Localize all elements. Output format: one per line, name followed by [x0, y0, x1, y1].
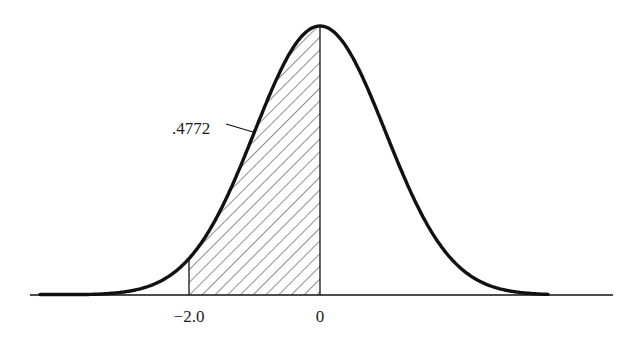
tick-label-zero: 0 [316, 307, 325, 326]
shaded-area [185, 20, 325, 300]
annotation-leader-line [226, 124, 253, 132]
tick-label-minus-two: −2.0 [174, 307, 205, 326]
area-value-label: .4772 [172, 119, 210, 138]
normal-curve-chart: .4772 −2.0 0 [0, 0, 632, 345]
